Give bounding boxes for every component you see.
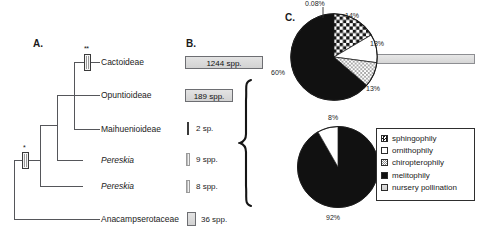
species-count-maihuenioideae: 2 sp. [196, 124, 213, 133]
tree-branch-upper-stub [57, 95, 74, 96]
node-support-mark-root: * [23, 145, 25, 151]
species-bar-maihuenioideae [187, 122, 189, 135]
panel-b-letter: B. [186, 38, 196, 49]
tree-branch-upper-vertical [74, 62, 75, 130]
legend-label-nursery-pollination: nursery pollination [392, 183, 457, 192]
legend-label-melitophily: melitophily [392, 171, 430, 180]
pie-label-nursery-top: 0.08% [305, 0, 325, 8]
species-bar-opuntioideae: 189 spp. [185, 89, 233, 102]
legend-item-melitophily: melitophily [381, 169, 470, 181]
panel-a-letter: A. [33, 38, 43, 49]
pie-label-melitophily-top: 60% [271, 69, 285, 77]
pie-label-melitophily-bottom: 92% [326, 214, 340, 222]
melitophily-swatch-icon [381, 172, 388, 179]
species-count-pereskia-1: 9 spp. [196, 155, 218, 164]
sphingophily-swatch-icon [381, 135, 388, 142]
taxon-label-maihuenioideae: Maihuenioideae [101, 125, 161, 134]
pie-label-chiropterophily-top: 13% [366, 85, 380, 93]
tree-branch-maihuenioideae [74, 129, 100, 130]
taxon-label-cactoideae: Cactoideae [101, 58, 144, 67]
node-support-box-root [22, 152, 29, 169]
taxon-label-opuntioideae: Opuntioideae [101, 91, 152, 100]
species-count-cactoideae: 1244 spp. [186, 58, 262, 67]
legend-label-sphingophily: sphingophily [392, 134, 436, 143]
node-support-mark-cactoideae: ** [84, 46, 88, 52]
tree-branch-root-right [29, 160, 40, 161]
tree-branch-cactoideae-tip [91, 62, 100, 63]
chiropterophily-swatch-icon [381, 159, 388, 166]
ornithophily-swatch-icon [381, 147, 388, 154]
legend-item-chiropterophily: chiropterophily [381, 157, 470, 169]
legend-label-chiropterophily: chiropterophily [392, 158, 444, 167]
species-bar-pereskia-1 [186, 153, 190, 166]
pollination-syndrome-legend: sphingophily ornithophily chiropterophil… [376, 128, 475, 201]
legend-item-ornithophily: ornithophily [381, 144, 470, 156]
tree-branch-root-vertical [14, 160, 15, 220]
taxon-label-pereskia-2: Pereskia [101, 182, 134, 191]
tree-branch-anacampserotaceae [14, 219, 100, 220]
tree-branch-core-vertical [57, 95, 58, 161]
legend-item-sphingophily: sphingophily [381, 132, 470, 144]
legend-item-nursery-pollination: nursery pollination [381, 182, 470, 194]
connector-bar-top [373, 54, 475, 64]
species-bar-cactoideae: 1244 spp. [185, 56, 263, 69]
tree-branch-pereskia2 [40, 186, 83, 187]
nursery-pollination-swatch-icon [381, 184, 388, 191]
tree-branch-pereskia1 [57, 160, 83, 161]
grouping-brace [238, 78, 256, 208]
species-count-anacampserotaceae: 36 spp. [201, 215, 227, 224]
taxon-label-anacampserotaceae: Anacampserotaceae [101, 215, 179, 224]
node-support-box-cactoideae [84, 54, 91, 71]
panel-c-letter: C. [285, 12, 295, 23]
tree-branch-cactaceae-vertical [40, 125, 41, 186]
taxon-label-pereskia-1: Pereskia [101, 156, 134, 165]
pie-label-ornithophily-top: 13% [370, 40, 384, 48]
species-count-opuntioideae: 189 spp. [186, 91, 232, 100]
pie-chart-other-clades [294, 123, 382, 211]
pie-label-ornithophily-bottom: 8% [328, 114, 338, 122]
tree-branch-opuntioideae [74, 95, 100, 96]
tree-branch-cactoideae-stub [74, 62, 84, 63]
species-bar-pereskia-2 [186, 180, 190, 193]
species-count-pereskia-2: 8 spp. [196, 182, 218, 191]
legend-label-ornithophily: ornithophily [392, 146, 433, 155]
figure-canvas: A. * ** Cactoideae Opuntioideae Maihueni… [0, 0, 479, 241]
pie-label-sphingophily-top: 14% [345, 12, 359, 20]
pie-leader-line-nursery [316, 6, 330, 20]
species-bar-anacampserotaceae [187, 212, 196, 226]
tree-branch-core-stub [40, 125, 57, 126]
